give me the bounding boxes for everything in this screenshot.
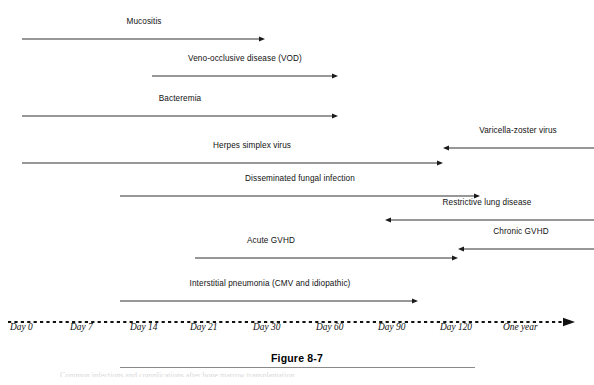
axis-tick-one-year: One year bbox=[503, 322, 538, 332]
axis-tick-day-120: Day 120 bbox=[440, 322, 472, 332]
bar-arrow-restrictive-lung-disease bbox=[385, 214, 594, 215]
axis-tick-day-14: Day 14 bbox=[130, 322, 157, 332]
axis-tick-day-7: Day 7 bbox=[70, 322, 93, 332]
figure-caption-block: Figure 8-7 Common infections and complic… bbox=[0, 352, 594, 385]
bar-label-mucositis: Mucositis bbox=[126, 17, 161, 26]
bar-arrow-disseminated-fungal-infection bbox=[120, 190, 480, 191]
bar-label-chronic-gvhd: Chronic GVHD bbox=[493, 227, 548, 236]
caption-divider-rule bbox=[120, 367, 475, 368]
figure-caption-title: Figure 8-7 bbox=[0, 352, 594, 364]
axis-tick-day-60: Day 60 bbox=[316, 322, 343, 332]
bar-label-acute-gvhd: Acute GVHD bbox=[247, 236, 295, 245]
bar-label-restrictive-lung-disease: Restrictive lung disease bbox=[443, 198, 532, 207]
bar-arrow-interstitial-pneumonia-cmv-and-idiopathic bbox=[120, 295, 418, 296]
figure-caption-subtext: Common infections and complications afte… bbox=[60, 371, 530, 377]
bar-label-herpes-simplex-virus: Herpes simplex virus bbox=[213, 141, 291, 150]
bar-arrow-varicella-zoster-virus bbox=[443, 142, 594, 143]
bar-arrow-acute-gvhd bbox=[195, 252, 458, 253]
bar-arrow-chronic-gvhd bbox=[458, 243, 594, 244]
timeline-figure: MucositisVeno-occlusive disease (VOD)Bac… bbox=[0, 0, 594, 385]
bar-arrow-bacteremia bbox=[22, 110, 338, 111]
bar-arrow-herpes-simplex-virus bbox=[22, 157, 443, 158]
axis-tick-day-30: Day 30 bbox=[253, 322, 280, 332]
axis-tick-day-21: Day 21 bbox=[190, 322, 217, 332]
bar-label-disseminated-fungal-infection: Disseminated fungal infection bbox=[245, 174, 355, 183]
bar-label-bacteremia: Bacteremia bbox=[159, 94, 201, 103]
axis-tick-day-90: Day 90 bbox=[378, 322, 405, 332]
bar-arrow-veno-occlusive-disease-vod bbox=[152, 70, 338, 71]
bar-label-interstitial-pneumonia-cmv-and-idiopathic: Interstitial pneumonia (CMV and idiopath… bbox=[190, 279, 351, 288]
axis-tick-labels: Day 0Day 7Day 14Day 21Day 30Day 60Day 90… bbox=[0, 322, 594, 336]
bar-arrow-mucositis bbox=[22, 33, 265, 34]
axis-tick-day-0: Day 0 bbox=[10, 322, 33, 332]
bar-label-varicella-zoster-virus: Varicella-zoster virus bbox=[479, 126, 557, 135]
bar-label-veno-occlusive-disease-vod: Veno-occlusive disease (VOD) bbox=[188, 54, 302, 63]
